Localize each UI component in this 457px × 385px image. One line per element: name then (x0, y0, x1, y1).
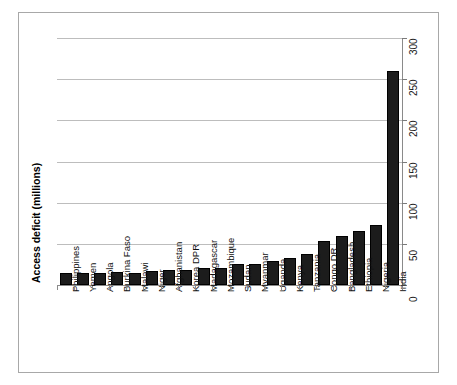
category-tick (195, 286, 196, 290)
category-tick (385, 286, 386, 290)
value-axis-tick (402, 244, 407, 245)
bar-slot (92, 38, 109, 285)
category-tick (230, 286, 231, 290)
category-tick (161, 286, 162, 290)
bar (387, 71, 399, 285)
category-label: Mozambique (225, 238, 236, 292)
category-tick (333, 286, 334, 290)
bar-slot (247, 38, 264, 285)
value-axis-tick (402, 162, 407, 163)
category-tick (212, 286, 213, 290)
category-tick (247, 286, 248, 290)
category-tick (316, 286, 317, 290)
category-tick (368, 286, 369, 290)
value-axis-tick (402, 203, 407, 204)
category-tick (178, 286, 179, 290)
category-tick (350, 286, 351, 290)
value-axis-tick-label: 150 (408, 145, 419, 179)
category-label: Burkina Faso (121, 236, 132, 292)
value-axis-tick-label: 0 (408, 268, 419, 302)
bar-slot (281, 38, 298, 285)
category-label: Korea DPR (190, 244, 201, 292)
bar-slot (368, 38, 385, 285)
category-tick (264, 286, 265, 290)
value-axis-tick (402, 38, 407, 39)
category-tick (143, 286, 144, 290)
value-axis-tick-label: 250 (408, 62, 419, 96)
category-tick (299, 286, 300, 290)
category-tick (126, 286, 127, 290)
bar-slot (385, 38, 402, 285)
value-axis-title: Access deficit (millions) (30, 163, 42, 283)
value-axis-tick-label: 300 (408, 21, 419, 55)
category-label: Afghanistan (173, 242, 184, 292)
category-tick (57, 286, 58, 290)
value-axis-tick-label: 50 (408, 227, 419, 261)
bar-slot (143, 38, 160, 285)
bar-slot (264, 38, 281, 285)
category-label: Madagascar (208, 240, 219, 292)
category-tick (92, 286, 93, 290)
value-axis-tick (402, 79, 407, 80)
category-tick (402, 286, 403, 290)
value-axis-tick (402, 120, 407, 121)
category-tick (109, 286, 110, 290)
category-tick (74, 286, 75, 290)
value-axis-tick-label: 200 (408, 103, 419, 137)
bar-slot (299, 38, 316, 285)
value-axis-tick-label: 100 (408, 186, 419, 220)
category-label: Bangladesh (346, 242, 357, 292)
category-tick (281, 286, 282, 290)
